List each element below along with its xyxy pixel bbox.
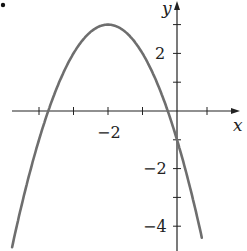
parabola-chart: x −2 y 2 −2 −4 [0, 0, 247, 251]
y-axis: y 2 −2 −4 [143, 0, 181, 251]
x-tick-label-minus2: −2 [97, 123, 121, 142]
y-tick-label-2: 2 [155, 44, 165, 63]
x-axis-label: x [233, 115, 243, 135]
y-axis-arrow-icon [174, 1, 180, 10]
x-axis-arrow-icon [231, 108, 240, 114]
y-axis-label: y [161, 0, 172, 18]
y-tick-label-minus2: −2 [143, 159, 167, 178]
y-tick-label-minus4: −4 [143, 217, 167, 236]
list-bullet [1, 3, 5, 7]
